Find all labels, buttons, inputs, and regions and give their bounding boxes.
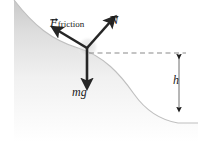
- height-label: h: [173, 74, 179, 86]
- vector-arrow-accent-friction: [50, 17, 58, 23]
- hill-surface: [14, 0, 198, 142]
- friction-subscript: friction: [58, 19, 85, 29]
- physics-diagram-figure: F friction N mg h: [0, 0, 198, 142]
- normal-vector-symbol: N: [110, 14, 118, 27]
- weight-symbol-letter: mg: [72, 85, 87, 99]
- normal-force-label: N: [110, 14, 118, 27]
- weight-force-label: mg: [72, 86, 87, 98]
- diagram-canvas: [0, 0, 198, 142]
- friction-force-label: F friction: [50, 17, 84, 30]
- vector-arrow-accent-normal: [110, 14, 118, 20]
- height-symbol-letter: h: [173, 73, 179, 87]
- normal-force-arrow: [87, 21, 111, 48]
- friction-vector-symbol: F: [50, 17, 58, 30]
